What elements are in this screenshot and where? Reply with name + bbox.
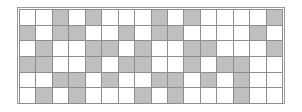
lattice-cell-empty	[266, 25, 282, 41]
lattice-cell-empty	[217, 41, 233, 57]
lattice-cell-empty	[233, 25, 249, 41]
lattice-cell-empty	[118, 41, 134, 57]
lattice-cell-empty	[167, 10, 183, 26]
lattice-row	[20, 88, 283, 104]
lattice-cell-filled	[184, 56, 200, 72]
lattice-cell-filled	[167, 88, 183, 104]
lattice-cell-empty	[151, 88, 167, 104]
lattice-cell-filled	[266, 41, 282, 57]
lattice-cell-empty	[167, 56, 183, 72]
lattice-cell-empty	[151, 56, 167, 72]
lattice-cell-empty	[52, 88, 68, 104]
cell-lattice-body	[20, 10, 283, 104]
lattice-cell-filled	[233, 88, 249, 104]
lattice-cell-empty	[36, 10, 52, 26]
lattice-cell-empty	[20, 10, 36, 26]
lattice-cell-empty	[20, 88, 36, 104]
lattice-cell-filled	[167, 72, 183, 88]
lattice-cell-filled	[52, 72, 68, 88]
lattice-cell-empty	[135, 10, 151, 26]
lattice-cell-empty	[102, 88, 118, 104]
lattice-cell-empty	[250, 72, 266, 88]
lattice-cell-empty	[233, 41, 249, 57]
lattice-cell-empty	[20, 41, 36, 57]
lattice-cell-filled	[266, 10, 282, 26]
lattice-cell-empty	[250, 56, 266, 72]
lattice-cell-empty	[102, 25, 118, 41]
lattice-cell-filled	[85, 41, 101, 57]
lattice-row	[20, 10, 283, 26]
lattice-cell-empty	[69, 10, 85, 26]
lattice-cell-empty	[69, 56, 85, 72]
lattice-cell-filled	[52, 10, 68, 26]
lattice-cell-empty	[85, 72, 101, 88]
lattice-row	[20, 25, 283, 41]
lattice-cell-filled	[20, 56, 36, 72]
lattice-cell-filled	[85, 56, 101, 72]
lattice-cell-filled	[36, 88, 52, 104]
lattice-cell-empty	[250, 41, 266, 57]
lattice-cell-filled	[69, 72, 85, 88]
lattice-cell-empty	[118, 72, 134, 88]
lattice-cell-filled	[184, 41, 200, 57]
grid-frame	[17, 7, 285, 104]
lattice-cell-empty	[167, 41, 183, 57]
lattice-cell-empty	[135, 25, 151, 41]
lattice-cell-empty	[85, 88, 101, 104]
lattice-cell-empty	[36, 25, 52, 41]
lattice-cell-filled	[135, 88, 151, 104]
lattice-cell-filled	[250, 25, 266, 41]
lattice-cell-empty	[118, 88, 134, 104]
lattice-row	[20, 56, 283, 72]
lattice-cell-filled	[167, 25, 183, 41]
lattice-cell-filled	[102, 41, 118, 57]
lattice-cell-empty	[52, 41, 68, 57]
lattice-cell-filled	[135, 41, 151, 57]
lattice-row	[20, 72, 283, 88]
lattice-cell-filled	[118, 25, 134, 41]
lattice-cell-filled	[217, 56, 233, 72]
lattice-cell-empty	[20, 72, 36, 88]
lattice-cell-filled	[118, 56, 134, 72]
lattice-cell-empty	[266, 56, 282, 72]
lattice-cell-empty	[200, 10, 216, 26]
lattice-cell-filled	[200, 41, 216, 57]
lattice-cell-filled	[151, 10, 167, 26]
lattice-row	[20, 41, 283, 57]
lattice-cell-filled	[69, 88, 85, 104]
lattice-cell-empty	[52, 56, 68, 72]
lattice-cell-filled	[184, 10, 200, 26]
lattice-cell-empty	[200, 25, 216, 41]
lattice-cell-empty	[200, 88, 216, 104]
lattice-cell-filled	[151, 72, 167, 88]
lattice-cell-empty	[135, 72, 151, 88]
lattice-cell-filled	[36, 41, 52, 57]
lattice-cell-filled	[151, 25, 167, 41]
lattice-cell-empty	[36, 72, 52, 88]
lattice-cell-empty	[217, 72, 233, 88]
lattice-cell-empty	[118, 10, 134, 26]
lattice-cell-empty	[266, 88, 282, 104]
lattice-cell-filled	[135, 56, 151, 72]
lattice-cell-empty	[217, 10, 233, 26]
lattice-cell-empty	[250, 10, 266, 26]
lattice-cell-empty	[266, 72, 282, 88]
lattice-cell-filled	[36, 56, 52, 72]
lattice-cell-filled	[102, 72, 118, 88]
lattice-cell-empty	[85, 25, 101, 41]
lattice-cell-filled	[233, 72, 249, 88]
cell-lattice	[19, 9, 283, 104]
lattice-cell-empty	[250, 88, 266, 104]
lattice-cell-empty	[69, 41, 85, 57]
lattice-cell-empty	[233, 10, 249, 26]
lattice-cell-filled	[20, 25, 36, 41]
lattice-cell-empty	[184, 25, 200, 41]
lattice-cell-empty	[217, 25, 233, 41]
grid-figure	[0, 0, 302, 112]
lattice-cell-empty	[184, 72, 200, 88]
lattice-cell-filled	[233, 56, 249, 72]
lattice-cell-empty	[200, 56, 216, 72]
lattice-cell-filled	[52, 25, 68, 41]
lattice-cell-filled	[85, 10, 101, 26]
lattice-cell-empty	[217, 88, 233, 104]
